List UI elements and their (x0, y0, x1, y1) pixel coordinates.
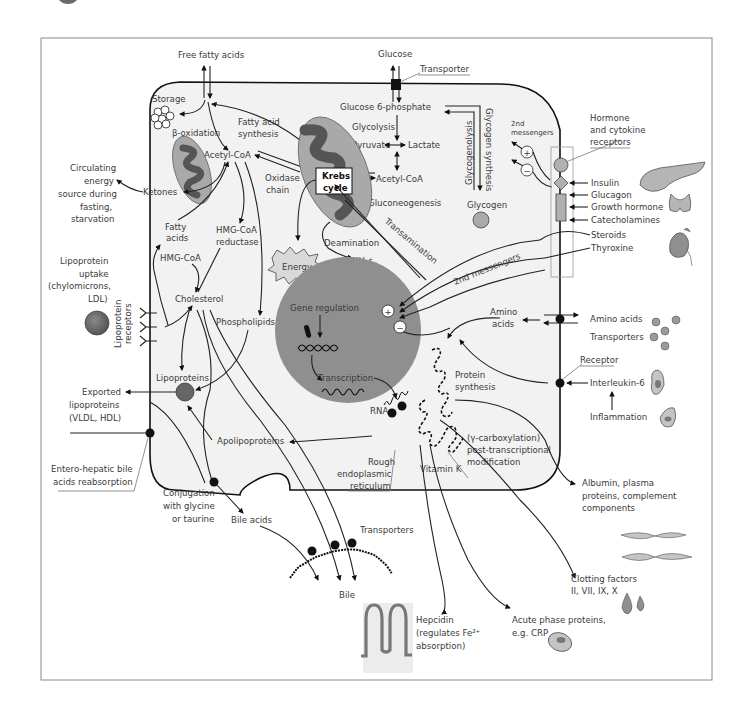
label-acetyl-coa-left: Acetyl-CoA (204, 150, 251, 160)
glucose-transporter-icon (391, 79, 401, 90)
receptor-rect-icon (556, 194, 566, 221)
label-krebs-1: Krebs (322, 171, 350, 181)
bile-transporter-3-icon (348, 539, 357, 548)
label-lipo-receptors-1: Lipoprotein (113, 300, 123, 348)
ribosome-1-icon (388, 409, 397, 418)
label-hmg-coa-reductase-1: HMG-CoA (216, 225, 257, 235)
ribosome-2-icon (398, 402, 407, 411)
label-lipo-uptake-3: (chylomicrons, (48, 281, 111, 291)
label-thyroxine: Thyroxine (590, 243, 633, 253)
label-hepcidin-3: absorption) (416, 641, 465, 651)
label-glycogen: Glycogen (467, 200, 507, 210)
il6-receptor-icon (556, 379, 565, 388)
label-gamma-2: post-transcriptional (467, 445, 551, 455)
label-vitamin-k: Vitamin K (420, 464, 462, 474)
label-hepcidin-1: Hepcidin (416, 615, 454, 625)
label-clotting-1: Clotting factors (571, 574, 638, 584)
label-glucose: Glucose (378, 49, 412, 59)
label-plus: + (385, 307, 392, 317)
label-albumin-3: components (582, 503, 636, 513)
label-beta-oxidation: β-oxidation (172, 128, 220, 138)
label-fatty-acids-1: Fatty (165, 222, 186, 232)
label-acute-1: Acute phase proteins, (512, 615, 606, 625)
label-storage: Storage (152, 94, 186, 104)
label-growth-hormone: Growth hormone (591, 202, 663, 212)
label-gamma-3: modification (467, 457, 520, 467)
label-rer-3: reticulum (350, 481, 391, 491)
label-lipo-uptake-1: Lipoprotein (60, 256, 108, 266)
glycogen-granule-icon (473, 212, 489, 228)
label-amino-acids-inner-1: Amino (490, 307, 517, 317)
label-transporters-bottom: Transporters (359, 525, 414, 535)
label-gluconeogenesis: Gluconeogenesis (368, 198, 442, 208)
label-fatty-acid-synthesis-1: Fatty acid (238, 117, 280, 127)
label-circulating-5: starvation (71, 214, 114, 224)
label-conjugation-2: with glycine (163, 501, 215, 511)
label-hormone-3: receptors (590, 137, 631, 147)
label-receptor-plus: + (524, 148, 531, 158)
label-circulating-2: energy (84, 176, 114, 186)
label-transporters: Transporters (589, 332, 644, 342)
bile-transporter-2-icon (331, 541, 340, 550)
chapter-marker-icon (56, 0, 80, 4)
label-exported-1: Exported (82, 387, 121, 397)
lipoprotein-particle-icon (176, 383, 194, 401)
label-hmg-coa-reductase-2: reductase (216, 237, 259, 247)
label-bile-acids: Bile acids (231, 515, 273, 525)
label-conjugation-3: or taurine (172, 514, 214, 524)
label-acetyl-coa-right: Acetyl-CoA (376, 174, 423, 184)
label-hmg-coa: HMG-CoA (160, 253, 201, 263)
label-lipo-uptake-4: LDL) (88, 294, 108, 304)
label-circulating-1: Circulating (70, 163, 116, 173)
label-oxidase-2: chain (266, 185, 289, 195)
label-krebs-2: cycle (323, 183, 348, 193)
label-amino-acids: Amino acids (590, 314, 643, 324)
label-transcription: Transcription (317, 373, 373, 383)
label-lactate: Lactate (408, 140, 440, 150)
label-lipo-uptake-2: uptake (79, 269, 109, 279)
label-circulating-3: source during (58, 189, 117, 199)
label-receptor-minus: − (524, 166, 531, 176)
amino-acid-transporter-icon (556, 315, 565, 324)
label-second-msg-small-1: 2nd (511, 120, 524, 128)
label-albumin-1: Albumin, plasma (582, 478, 654, 488)
label-rer-1: Rough (368, 457, 395, 467)
intestinal-villi-icon (361, 603, 413, 673)
label-hormone-2: and cytokine (590, 125, 645, 135)
label-oxidase-1: Oxidase (265, 173, 300, 183)
label-catecholamines: Catecholamines (591, 215, 660, 225)
label-transporter: Transporter (419, 64, 470, 74)
label-lipo-receptors-2: receptors (123, 303, 133, 344)
label-hepcidin-2: (regulates Fe²⁺ (416, 628, 480, 638)
label-enterohepatic-2: acids reabsorption (53, 477, 133, 487)
bile-transporter-1-icon (308, 547, 317, 556)
label-phospholipids: Phospholipids (216, 317, 276, 327)
label-albumin-2: proteins, complement (582, 491, 677, 501)
label-rer-2: endoplasmic (337, 469, 392, 479)
label-amino-acids-inner-2: acids (492, 319, 515, 329)
label-bile: Bile (339, 590, 355, 600)
label-circulating-4: fasting, (80, 202, 112, 212)
label-acute-2: e.g. CRP (512, 628, 548, 638)
label-clotting-2: II, VII, IX, X (571, 586, 618, 596)
label-ketones: Ketones (143, 187, 178, 197)
label-hormone-1: Hormone (590, 113, 629, 123)
label-conjugation-1: Conjugation (163, 488, 215, 498)
label-interleukin: Interleukin-6 (590, 378, 645, 388)
label-receptor: Receptor (580, 355, 619, 365)
label-rna: RNA (370, 406, 388, 416)
receptor-circle-icon (554, 158, 568, 172)
label-fatty-acid-synthesis-2: synthesis (238, 129, 279, 139)
label-protein-synthesis-1: Protein (455, 370, 485, 380)
label-gene-regulation: Gene regulation (290, 303, 359, 313)
lipoprotein-uptake-particle-icon (85, 311, 109, 335)
label-glycogen-synthesis: Glycogen synthesis (484, 108, 494, 192)
label-glucose-6-phosphate: Glucose 6-phosphate (340, 102, 431, 112)
label-insulin: Insulin (591, 178, 619, 188)
label-deamination: Deamination (324, 238, 379, 248)
label-lipoproteins: Lipoproteins (156, 373, 209, 383)
hepatocyte-metabolism-diagram: Free fatty acids Glucose Transporter Sto… (0, 0, 748, 716)
label-exported-2: lipoproteins (69, 400, 120, 410)
label-exported-3: (VLDL, HDL) (69, 413, 121, 423)
label-glycogenolysis: Glycogenolysis (464, 120, 474, 185)
